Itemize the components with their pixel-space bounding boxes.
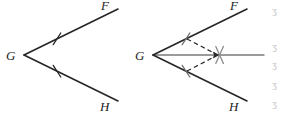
left-ray-label-f: F: [100, 0, 110, 13]
right-ray-label-f: F: [229, 0, 239, 13]
geometry-figure-canvas: G F H G F H: [0, 0, 281, 115]
edge-artifact-2: ʒ: [272, 58, 277, 70]
left-ray-label-h: H: [99, 99, 110, 114]
right-vertex-label-g: G: [135, 48, 145, 63]
edge-artifacts: ʒ ʒ ʒ ʒ ʒ: [272, 4, 277, 109]
left-ray-gh: [24, 55, 118, 101]
right-ray-gf: [153, 9, 247, 55]
edge-artifact-0: ʒ: [272, 4, 277, 16]
edge-artifact-4: ʒ: [272, 97, 277, 109]
left-tick-gh: [53, 65, 61, 77]
right-ray-gh: [153, 55, 247, 101]
right-dashed-upper: [187, 39, 216, 54]
panel-bisected-angle: G F H: [135, 0, 264, 114]
left-tick-gf: [53, 33, 61, 45]
left-ray-gf: [24, 9, 118, 55]
edge-artifact-3: ʒ: [272, 78, 277, 90]
right-ray-label-h: H: [228, 99, 239, 114]
right-dashed-lower: [187, 56, 216, 71]
left-vertex-label-g: G: [6, 48, 16, 63]
right-tick-gh: [182, 65, 190, 77]
right-tick-gf: [182, 33, 190, 45]
panel-given-angle: G F H: [6, 0, 118, 114]
edge-artifact-1: ʒ: [272, 40, 277, 52]
